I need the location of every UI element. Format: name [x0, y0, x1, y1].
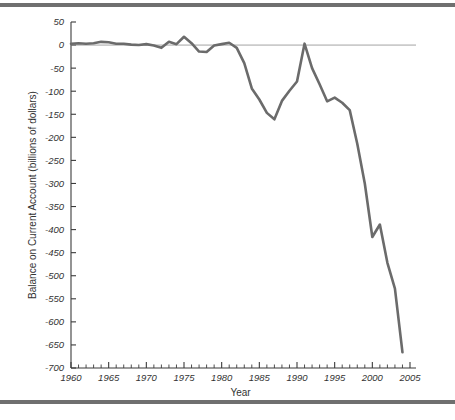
y-tick-label--600: -600 [45, 316, 65, 327]
bottom-rule [0, 400, 455, 404]
x-axis-title: Year [230, 387, 251, 398]
x-tick-label-1970: 1970 [136, 372, 158, 383]
y-tick-label-0: 0 [59, 39, 65, 50]
y-tick-label--100: -100 [45, 86, 65, 97]
y-tick-label--50: -50 [50, 63, 64, 74]
x-axis: 1960196519701975198019851990199520002005 [60, 362, 421, 383]
x-tick-label-2000: 2000 [361, 372, 384, 383]
x-tick-label-1980: 1980 [211, 372, 233, 383]
y-tick-label--350: -350 [45, 201, 65, 212]
y-tick-label--400: -400 [45, 224, 65, 235]
y-axis: 500-50-100-150-200-250-300-350-400-450-5… [45, 16, 76, 373]
x-tick-label-1965: 1965 [98, 372, 120, 383]
x-tick-label-1990: 1990 [286, 372, 308, 383]
y-tick-label--300: -300 [45, 178, 65, 189]
y-tick-label--150: -150 [45, 109, 65, 120]
y-axis-title: Balance on Current Account (billions of … [27, 91, 38, 299]
x-tick-label-2005: 2005 [398, 372, 421, 383]
line-chart: 500-50-100-150-200-250-300-350-400-450-5… [0, 0, 455, 420]
x-tick-label-1960: 1960 [60, 372, 82, 383]
top-rule [0, 3, 455, 7]
x-tick-label-1975: 1975 [173, 372, 195, 383]
x-tick-label-1995: 1995 [324, 372, 346, 383]
y-tick-label--550: -550 [45, 293, 65, 304]
x-tick-label-1985: 1985 [249, 372, 271, 383]
y-tick-label--200: -200 [45, 132, 65, 143]
y-tick-label--250: -250 [45, 155, 65, 166]
y-tick-label--650: -650 [45, 339, 65, 350]
y-tick-label-50: 50 [53, 16, 64, 27]
y-tick-label--500: -500 [45, 270, 65, 281]
figure-container: 500-50-100-150-200-250-300-350-400-450-5… [0, 0, 455, 420]
y-tick-label--450: -450 [45, 247, 65, 258]
current-account-balance-series [71, 37, 402, 353]
